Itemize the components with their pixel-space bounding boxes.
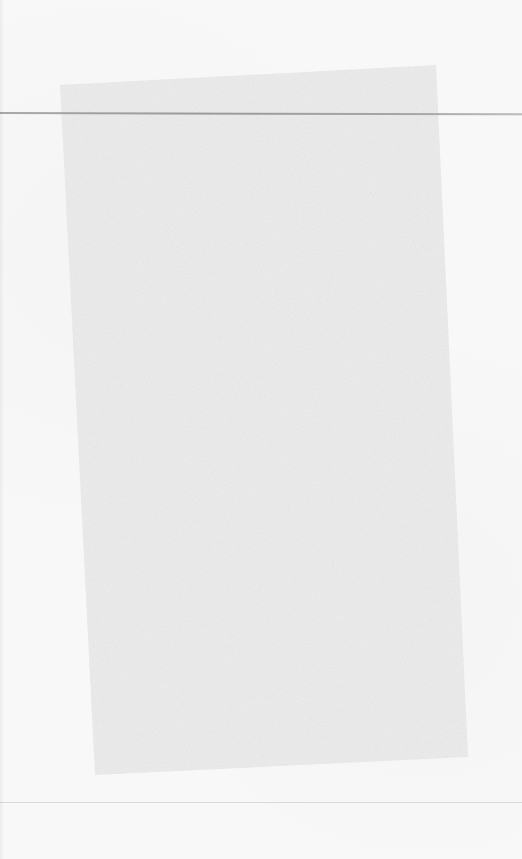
left-scan-shadow xyxy=(0,0,4,859)
scanned-page xyxy=(0,0,522,859)
bottom-scan-line xyxy=(0,802,522,803)
inner-paper-sheet xyxy=(0,0,522,859)
